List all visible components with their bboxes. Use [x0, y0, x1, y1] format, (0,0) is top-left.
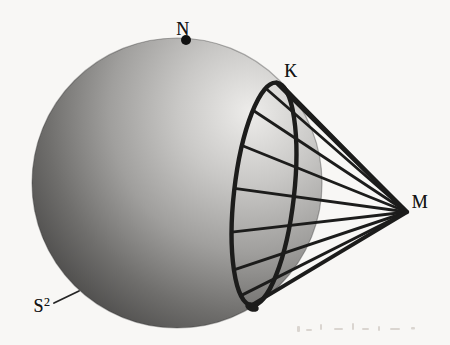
sphere-cone-diagram [0, 0, 450, 345]
label-external-point: M [412, 193, 429, 211]
label-tangency-point: K [284, 62, 298, 80]
label-sphere: S2 [33, 296, 50, 315]
scan-artifact [306, 329, 312, 331]
scan-artifact [320, 324, 322, 330]
scan-artifact [390, 328, 400, 330]
label-sphere-base: S [33, 296, 44, 316]
scan-artifact [411, 327, 415, 330]
label-sphere-exponent: 2 [44, 295, 51, 309]
sphere-label-leader-line [54, 291, 79, 303]
scan-artifact [297, 326, 300, 332]
scan-artifact [362, 328, 369, 330]
figure-canvas: N K M S2 [0, 0, 450, 345]
label-north-pole: N [176, 20, 190, 38]
scan-artifact [334, 328, 343, 330]
scan-artifact [378, 326, 380, 331]
scan-artifact [352, 323, 354, 330]
